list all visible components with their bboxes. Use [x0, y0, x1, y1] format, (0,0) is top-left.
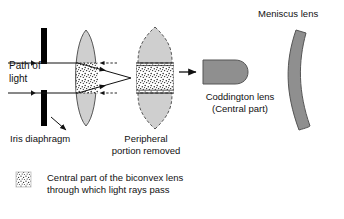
- label-meniscus-lens: Meniscus lens: [258, 8, 318, 20]
- coddington-lens: [203, 60, 248, 84]
- iris-diaphragm: [41, 28, 66, 130]
- truncated-lens: [136, 27, 174, 129]
- figure-canvas: Path of light Iris diaphragm Peripheral …: [0, 0, 344, 219]
- legend-swatch: [16, 172, 31, 187]
- label-coddington-lens: Coddington lens (Central part): [188, 91, 292, 114]
- biconvex-lens: [76, 30, 118, 126]
- label-iris-diaphragm: Iris diaphragm: [10, 133, 70, 145]
- label-peripheral-portion-removed: Peripheral portion removed: [98, 133, 194, 156]
- legend-caption: Central part of the biconvex lens throug…: [47, 172, 183, 196]
- meniscus-lens: [288, 30, 310, 130]
- label-path-of-light: Path of light: [9, 60, 41, 85]
